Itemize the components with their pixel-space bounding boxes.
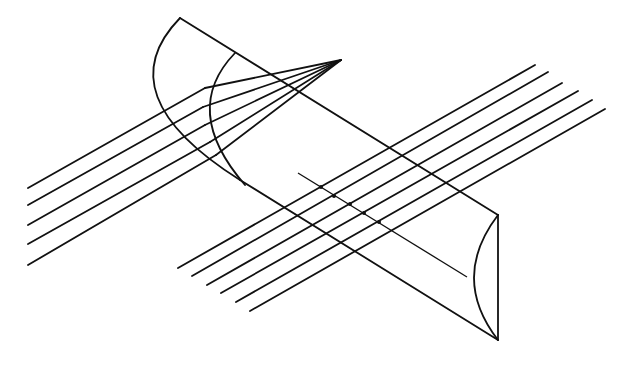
- top-edge: [180, 18, 498, 215]
- refracted-ray: [216, 60, 341, 155]
- parallel-ray: [221, 91, 578, 293]
- focal-point-dot: [332, 194, 336, 198]
- refracted-ray: [210, 60, 341, 142]
- incident-ray: [28, 125, 205, 225]
- diagram-canvas: [0, 0, 630, 366]
- focal-point-dot: [362, 211, 366, 215]
- front-face-arc: [474, 215, 498, 340]
- incident-ray: [28, 107, 203, 205]
- cylindrical-lens-diagram: [0, 0, 630, 366]
- parallel-ray: [207, 83, 562, 285]
- parallel-ray: [236, 100, 592, 302]
- converging-ray-bundle: [28, 60, 341, 265]
- focal-point-dot: [377, 220, 381, 224]
- focal-line: [298, 173, 467, 277]
- incident-ray: [28, 142, 210, 244]
- focal-point-dot: [348, 202, 352, 206]
- refracting-surface-arc: [210, 53, 245, 185]
- focal-axis-line: [298, 173, 467, 277]
- focal-point-dot: [319, 185, 323, 189]
- parallel-ray: [192, 72, 548, 276]
- refracted-ray: [205, 60, 341, 125]
- parallel-ray: [250, 109, 605, 311]
- incident-ray: [28, 88, 205, 188]
- cylinder-lens: [153, 18, 498, 340]
